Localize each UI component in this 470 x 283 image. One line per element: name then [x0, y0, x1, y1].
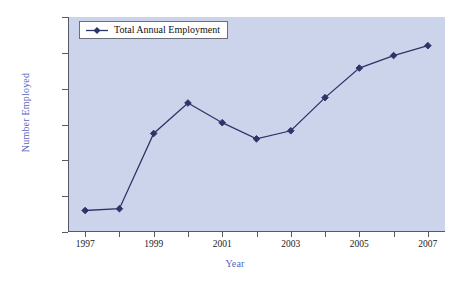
legend-marker-icon: [85, 26, 109, 35]
y-tick-mark: [62, 196, 68, 197]
line-chart: Number Employed Year 220,000200,000180,0…: [0, 0, 470, 283]
y-tick-mark: [62, 232, 68, 233]
x-tick-mark: [291, 232, 292, 237]
x-tick-mark: [85, 232, 86, 237]
x-tick-mark: [154, 232, 155, 237]
x-tick-mark: [222, 232, 223, 237]
x-tick-label: 2007: [408, 239, 448, 249]
x-tick-mark: [428, 232, 429, 237]
x-tick-label: 1999: [134, 239, 174, 249]
x-tick-mark: [359, 232, 360, 237]
legend-label: Total Annual Employment: [114, 24, 220, 36]
x-tick-mark: [257, 232, 258, 237]
x-tick-mark: [119, 232, 120, 237]
y-tick-mark: [62, 160, 68, 161]
y-axis-title: Number Employed: [20, 68, 31, 158]
x-tick-mark: [188, 232, 189, 237]
x-tick-label: 1997: [65, 239, 105, 249]
x-axis-title: Year: [0, 258, 470, 269]
x-tick-label: 2003: [271, 239, 311, 249]
x-tick-label: 2005: [339, 239, 379, 249]
x-tick-mark: [325, 232, 326, 237]
plot-area: [68, 17, 445, 232]
x-tick-label: 2001: [202, 239, 242, 249]
y-tick-mark: [62, 17, 68, 18]
y-tick-mark: [62, 125, 68, 126]
chart-legend: Total Annual Employment: [79, 21, 228, 39]
y-tick-mark: [62, 53, 68, 54]
y-tick-mark: [62, 89, 68, 90]
x-tick-mark: [394, 232, 395, 237]
